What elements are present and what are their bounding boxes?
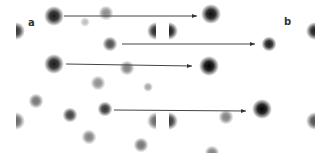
clipped-spot-3 <box>147 112 165 130</box>
clipped-spots-layer <box>7 22 324 130</box>
clipped-spot-4 <box>160 22 178 40</box>
spot-a-8 <box>29 94 44 109</box>
spot-a-0 <box>44 6 64 26</box>
arrows-layer <box>64 16 255 111</box>
spot-b-18 <box>205 146 220 154</box>
spot-a-3 <box>103 37 118 52</box>
clipped-spot-2 <box>147 22 165 40</box>
spot-a-4 <box>44 54 64 74</box>
spot-b-14 <box>262 37 277 52</box>
spot-b-15 <box>199 56 219 76</box>
spot-b-17 <box>252 99 272 119</box>
spot-a-12 <box>134 138 149 153</box>
clipped-spot-0 <box>7 22 25 40</box>
clipped-spot-6 <box>306 22 324 40</box>
panel-label-b: b <box>284 16 291 27</box>
clipped-spot-1 <box>7 112 25 130</box>
spot-a-7 <box>143 82 153 92</box>
spot-a-9 <box>63 108 78 123</box>
clipped-spot-7 <box>306 112 324 130</box>
spot-a-1 <box>80 17 90 27</box>
spot-a-5 <box>120 61 135 76</box>
spot-a-2 <box>99 6 114 21</box>
spot-b-16 <box>219 110 234 125</box>
panel-label-a: a <box>28 17 35 28</box>
clipped-spot-5 <box>160 112 178 130</box>
spot-a-6 <box>91 76 106 91</box>
spot-b-13 <box>201 4 221 24</box>
spot-a-11 <box>82 130 97 145</box>
spot-a-10 <box>98 102 113 117</box>
microscopy-figure: a b <box>0 0 329 153</box>
figure-canvas <box>0 0 329 153</box>
